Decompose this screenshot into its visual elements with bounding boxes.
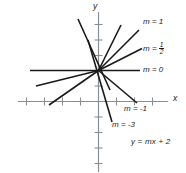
label-m-one-half: m = 12 — [143, 42, 164, 56]
label-m-0: m = 0 — [143, 66, 163, 74]
label-m-1: m = 1 — [143, 18, 163, 26]
y-axis-label: y — [93, 2, 97, 11]
label-m-negative-3: m = -3 — [112, 121, 135, 129]
line-m-3 — [78, 19, 110, 90]
label-m-one-half-prefix: m = — [143, 44, 159, 53]
x-axis-label: x — [173, 94, 177, 103]
line-m-half — [99, 49, 143, 71]
graph-figure: y x m = 1 m = 12 m = 0 m = -1 m = -3 y =… — [0, 0, 186, 173]
label-m-negative-1: m = -1 — [124, 105, 147, 113]
fraction-denominator: 2 — [159, 49, 165, 56]
line-m-2 — [99, 25, 122, 71]
equation-label: y = mx + 2 — [131, 138, 170, 146]
line-m-1 — [99, 30, 140, 71]
line-m-neg-2 — [49, 71, 99, 106]
axes — [18, 12, 168, 172]
line-m-neg-half — [36, 71, 99, 87]
line-m-neg-3 — [88, 40, 112, 122]
fraction-one-half: 12 — [159, 42, 165, 56]
